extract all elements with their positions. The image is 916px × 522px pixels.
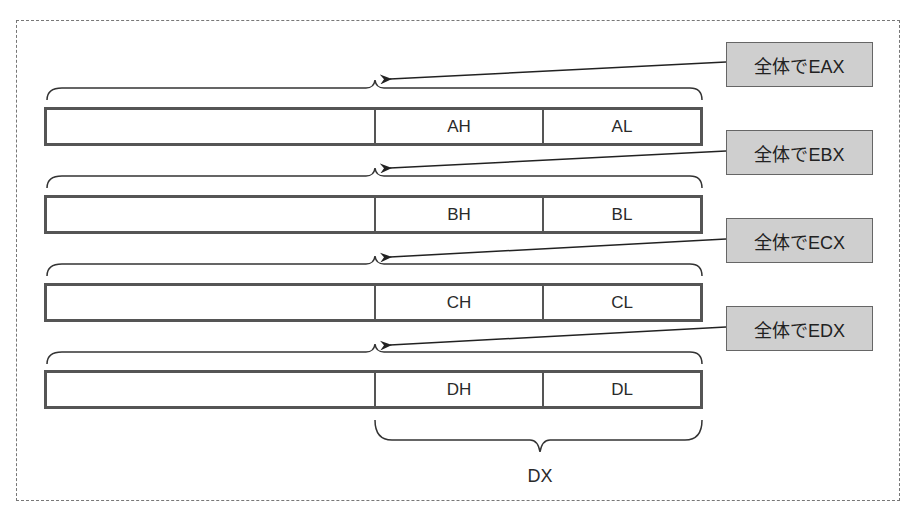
- callout-edx: 全体でEDX: [726, 306, 873, 351]
- register-high-byte: AH: [376, 110, 544, 143]
- arrow-eax: [390, 62, 726, 79]
- brace-ebx: [47, 168, 702, 188]
- register-low-byte: DL: [544, 373, 700, 406]
- brace-dx: [375, 420, 702, 452]
- callout-ebx: 全体でEBX: [726, 130, 873, 175]
- callout-ecx: 全体でECX: [726, 218, 873, 263]
- dx-brace-label: DX: [500, 466, 580, 487]
- arrow-ecx: [390, 239, 726, 257]
- register-low-byte: AL: [544, 110, 700, 143]
- register-row-ecx: CH CL: [44, 283, 703, 322]
- callout-eax: 全体でEAX: [726, 42, 873, 87]
- register-high-byte: CH: [376, 286, 544, 319]
- register-low-byte: BL: [544, 198, 700, 231]
- register-upper-half: [47, 110, 376, 143]
- register-upper-half: [47, 198, 376, 231]
- register-row-edx: DH DL: [44, 370, 703, 409]
- brace-edx: [47, 344, 702, 364]
- register-high-byte: BH: [376, 198, 544, 231]
- brace-ecx: [47, 256, 702, 276]
- register-high-byte: DH: [376, 373, 544, 406]
- register-low-byte: CL: [544, 286, 700, 319]
- register-row-eax: AH AL: [44, 107, 703, 146]
- brace-eax: [47, 80, 702, 100]
- register-upper-half: [47, 286, 376, 319]
- arrow-edx: [390, 327, 726, 345]
- arrow-ebx: [390, 151, 726, 168]
- register-row-ebx: BH BL: [44, 195, 703, 234]
- register-upper-half: [47, 373, 376, 406]
